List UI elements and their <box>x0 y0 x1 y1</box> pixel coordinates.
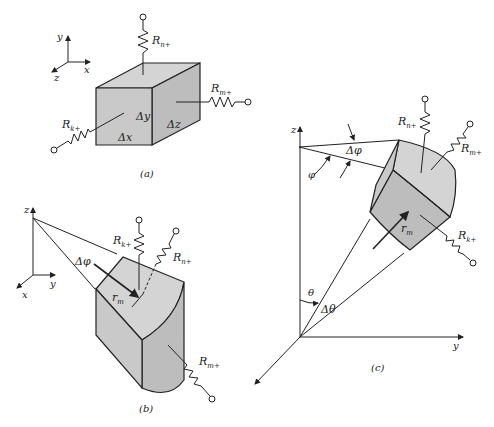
label-delta-theta: Δθ <box>320 303 336 316</box>
panel-a: y x z Δy Δx Δz Rn+ Rm+ <box>51 14 251 179</box>
label-rm: Rm+ <box>460 142 482 157</box>
label-rm: Rm+ <box>210 82 232 97</box>
label-rk: Rk+ <box>457 229 477 244</box>
axis-label-y: y <box>49 278 56 289</box>
label-rk: Rk+ <box>112 234 132 249</box>
label-rn: Rn+ <box>172 251 192 266</box>
label-delta-phi: Δφ <box>345 144 362 157</box>
label-rn: Rn+ <box>151 34 171 49</box>
panel-b: z y x Δφ rm Rk+ <box>17 204 220 414</box>
axis-label-x: x <box>22 289 28 300</box>
caption-a: (a) <box>140 168 154 179</box>
label-delta-z: Δz <box>166 118 181 131</box>
label-rk: Rk+ <box>61 118 81 133</box>
axis-label-y: y <box>56 31 63 42</box>
label-rm: Rm+ <box>198 355 220 370</box>
axis-label-z: z <box>53 72 60 83</box>
axis-label-x: x <box>84 64 90 75</box>
caption-b: (b) <box>139 403 153 414</box>
label-delta-x: Δx <box>117 131 133 144</box>
axes-triad-a: y x z <box>52 31 90 83</box>
label-phi: φ <box>308 169 315 180</box>
figure-canvas: y x z Δy Δx Δz Rn+ Rm+ <box>0 0 494 427</box>
axis-label-y: y <box>452 340 459 351</box>
label-theta: θ <box>308 287 314 298</box>
axis-label-z: z <box>23 204 30 215</box>
axes-triad-b: z y x <box>17 204 56 300</box>
axis-label-z: z <box>290 124 297 135</box>
cylindrical-element <box>96 257 184 393</box>
panel-c: z y rm Δφ φ θ Δθ Rn+ <box>255 96 482 384</box>
rectangular-element <box>96 63 200 145</box>
caption-c: (c) <box>371 362 385 373</box>
label-rn: Rn+ <box>397 115 417 130</box>
label-delta-y: Δy <box>135 110 151 123</box>
label-delta-phi: Δφ <box>74 255 91 268</box>
